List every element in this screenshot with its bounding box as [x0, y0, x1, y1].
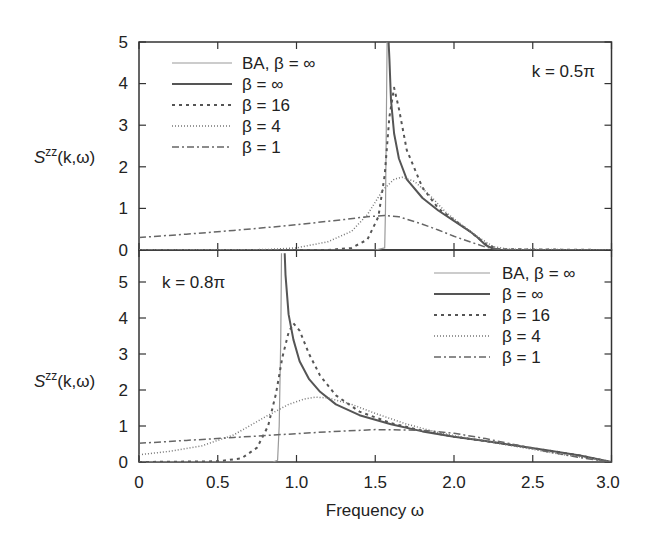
curve-dashed	[139, 88, 612, 250]
top-y-tick-labels: 0 1 2 3 4 5	[119, 33, 128, 260]
legend-label-ba: BA, β = ∞	[242, 54, 315, 73]
figure: 0 1 2 3 4 5 0 1 2 3 4 5 0 0.5 1.0 1.5 2.…	[0, 0, 651, 550]
bottom-y-tick-4: 4	[119, 309, 128, 328]
legend-label-inf: β = ∞	[242, 75, 283, 94]
top-y-tick-0: 0	[119, 241, 128, 260]
bottom-k-annotation: k = 0.8π	[162, 273, 225, 292]
bottom-y-tick-5: 5	[119, 273, 128, 292]
legend-label-ba: BA, β = ∞	[502, 264, 575, 283]
bottom-y-tick-3: 3	[119, 345, 128, 364]
legend-label-1: β = 1	[242, 138, 281, 157]
bottom-legend: BA, β = ∞ β = ∞ β = 16 β = 4 β = 1	[434, 264, 575, 367]
curve-dashed	[139, 323, 612, 462]
bottom-y-tick-1: 1	[119, 417, 128, 436]
top-y-tick-5: 5	[119, 33, 128, 52]
x-tick-3-0: 3.0	[596, 473, 620, 492]
top-legend: BA, β = ∞ β = ∞ β = 16 β = 4 β = 1	[172, 54, 315, 157]
x-tick-2-5: 2.5	[521, 473, 545, 492]
ylabel-main: S	[34, 372, 46, 391]
bottom-y-tick-labels: 0 1 2 3 4 5	[119, 273, 128, 472]
ylabel-main: S	[34, 148, 46, 167]
top-y-tick-3: 3	[119, 116, 128, 135]
ylabel-args: (k,ω)	[57, 148, 95, 167]
top-y-tick-4: 4	[119, 74, 128, 93]
x-tick-2-0: 2.0	[442, 473, 466, 492]
x-tick-0-5: 0.5	[206, 473, 230, 492]
legend-label-1: β = 1	[502, 348, 541, 367]
top-y-tick-1: 1	[119, 199, 128, 218]
curve-dotted	[139, 177, 612, 250]
ylabel-sup: zz	[45, 369, 57, 383]
x-tick-labels: 0 0.5 1.0 1.5 2.0 2.5 3.0	[134, 473, 620, 492]
curve-solid	[285, 253, 612, 462]
legend-label-16: β = 16	[242, 96, 290, 115]
x-tick-1-0: 1.0	[285, 473, 309, 492]
top-y-tick-2: 2	[119, 158, 128, 177]
legend-label-4: β = 4	[502, 327, 541, 346]
x-axis-title: Frequency ω	[326, 501, 424, 520]
legend-label-4: β = 4	[242, 117, 281, 136]
ylabel-sup: zz	[45, 145, 57, 159]
top-k-annotation: k = 0.5π	[532, 62, 595, 81]
bottom-y-tick-2: 2	[119, 381, 128, 400]
bottom-y-tick-0: 0	[119, 453, 128, 472]
x-tick-0: 0	[134, 473, 143, 492]
top-y-axis-title: Szz(k,ω)	[34, 145, 95, 167]
x-tick-1-5: 1.5	[363, 473, 387, 492]
bottom-y-axis-title: Szz(k,ω)	[34, 369, 95, 391]
legend-label-16: β = 16	[502, 306, 550, 325]
ylabel-args: (k,ω)	[57, 372, 95, 391]
legend-label-inf: β = ∞	[502, 285, 543, 304]
